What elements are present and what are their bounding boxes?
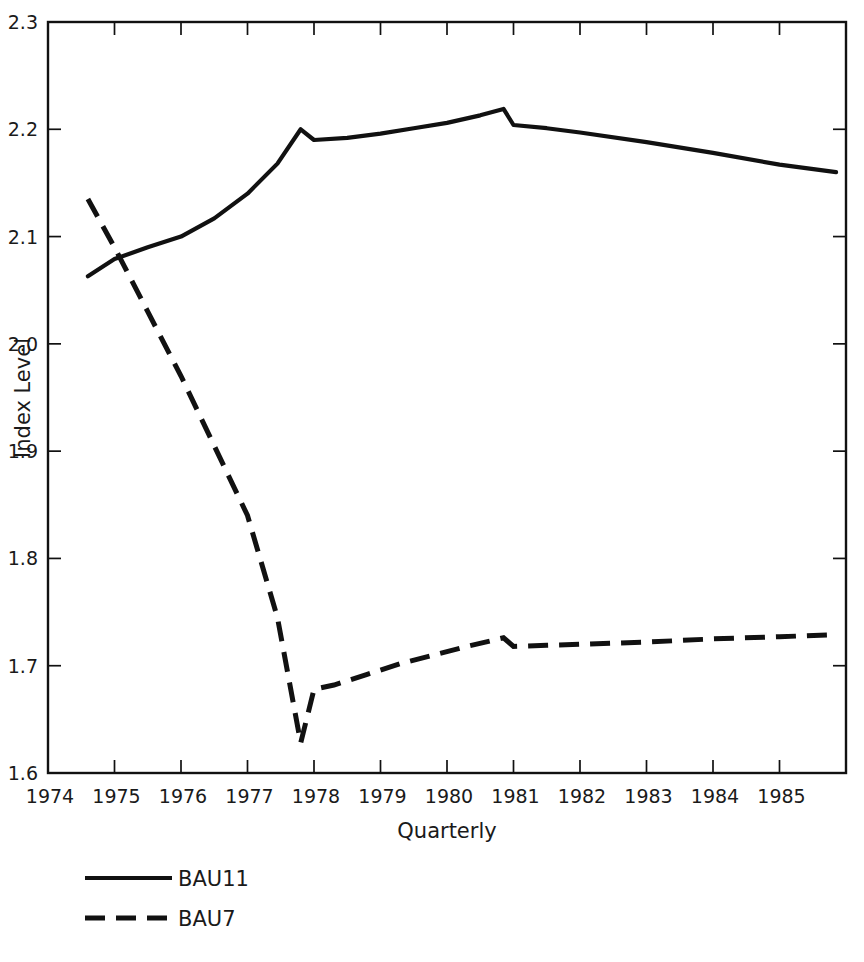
y-tick-label-1.6: 1.6 bbox=[8, 762, 38, 784]
y-axis-title: Index Level bbox=[11, 338, 35, 458]
x-tick-label-1974: 1974 bbox=[26, 785, 74, 807]
chart-figure: 2.32.22.12.01.91.81.71.6 197419751976197… bbox=[0, 0, 864, 962]
x-tick-label-1979: 1979 bbox=[358, 785, 406, 807]
chart-background bbox=[0, 0, 864, 962]
y-tick-label-1.7: 1.7 bbox=[8, 655, 38, 677]
x-tick-label-1977: 1977 bbox=[225, 785, 273, 807]
x-tick-label-1980: 1980 bbox=[425, 785, 473, 807]
y-tick-label-2.1: 2.1 bbox=[8, 226, 38, 248]
legend-label-bau11: BAU11 bbox=[178, 867, 249, 891]
y-tick-label-2.2: 2.2 bbox=[8, 118, 38, 140]
x-tick-label-1983: 1983 bbox=[624, 785, 672, 807]
x-tick-label-1982: 1982 bbox=[558, 785, 606, 807]
legend-label-bau7: BAU7 bbox=[178, 907, 236, 931]
line-chart-canvas: 2.32.22.12.01.91.81.71.6 197419751976197… bbox=[0, 0, 864, 962]
x-tick-label-1985: 1985 bbox=[757, 785, 805, 807]
x-tick-label-1984: 1984 bbox=[691, 785, 739, 807]
x-tick-label-1976: 1976 bbox=[159, 785, 207, 807]
y-tick-label-1.8: 1.8 bbox=[8, 547, 38, 569]
y-tick-label-2.3: 2.3 bbox=[8, 11, 38, 33]
x-tick-label-1981: 1981 bbox=[491, 785, 539, 807]
x-tick-label-1975: 1975 bbox=[92, 785, 140, 807]
x-tick-label-1978: 1978 bbox=[292, 785, 340, 807]
x-axis-title: Quarterly bbox=[397, 819, 496, 843]
